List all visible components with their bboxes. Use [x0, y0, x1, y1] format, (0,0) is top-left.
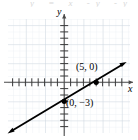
grid-background: [8, 19, 130, 133]
point-label-0-neg3: (0, −3): [66, 98, 93, 108]
point-label-5-0: (5, 0): [76, 62, 98, 72]
x-axis-label: x: [128, 84, 132, 94]
graph-canvas: [0, 0, 138, 140]
coordinate-plane-figure: y = x -y -y: [0, 0, 138, 140]
point-5-0: [94, 80, 99, 85]
y-axis-label: y: [57, 7, 61, 17]
